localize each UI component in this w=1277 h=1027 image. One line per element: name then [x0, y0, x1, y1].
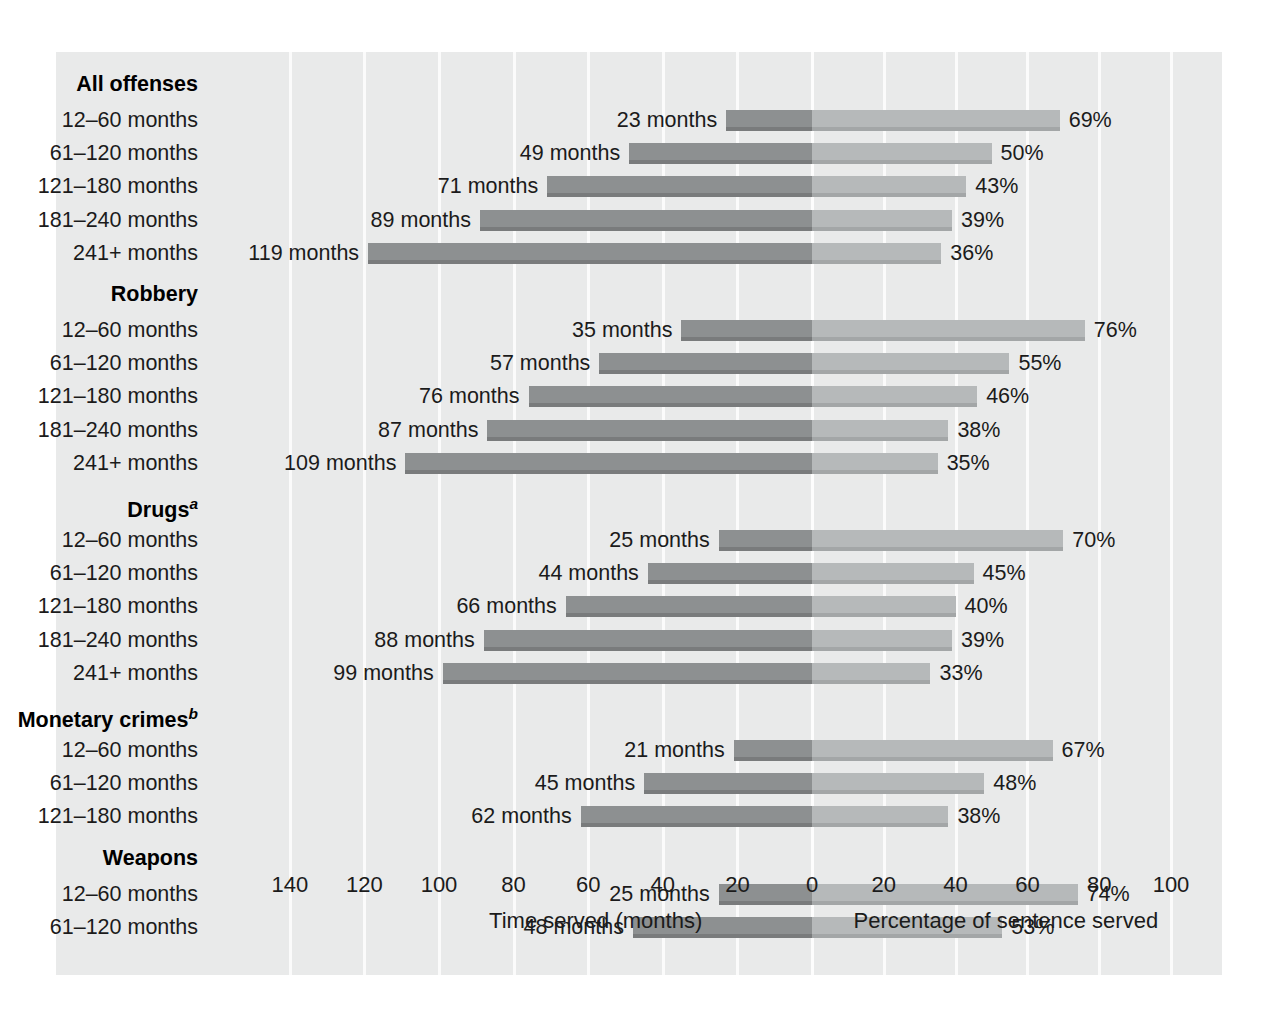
chart-row: 121–180 months66 months40% — [56, 593, 1222, 619]
row-category-label: 241+ months — [0, 240, 198, 266]
chart-row: 12–60 months35 months76% — [56, 317, 1222, 343]
bar-months — [566, 596, 812, 617]
group-heading-label: Drugs — [127, 498, 189, 522]
bar-percent-value-label: 40% — [956, 593, 1008, 619]
bar-months — [629, 143, 812, 164]
bar-percent-value-label: 48% — [984, 770, 1036, 796]
row-category-label: 181–240 months — [0, 207, 198, 233]
bar-percent-value-label: 36% — [941, 240, 993, 266]
bar-percent-value-label: 46% — [977, 383, 1029, 409]
bar-percent — [812, 143, 992, 164]
bar-months — [681, 320, 812, 341]
group-heading-robbery: Robbery — [0, 281, 198, 307]
bar-months-value-label: 71 months — [438, 173, 547, 199]
axis-area: 14012010080604020020406080100 Time serve… — [56, 852, 1222, 975]
bar-percent-value-label: 45% — [974, 560, 1026, 586]
row-category-label: 241+ months — [0, 450, 198, 476]
bar-percent — [812, 353, 1009, 374]
bar-months-value-label: 44 months — [538, 560, 647, 586]
bar-months-value-label: 25 months — [609, 527, 718, 553]
bar-months-value-label: 99 months — [333, 660, 442, 686]
bar-percent — [812, 773, 984, 794]
chart-row: 181–240 months88 months39% — [56, 627, 1222, 653]
chart-row: 12–60 months21 months67% — [56, 737, 1222, 763]
bar-months-value-label: 87 months — [378, 417, 487, 443]
chart-row: 181–240 months87 months38% — [56, 417, 1222, 443]
bar-percent-value-label: 76% — [1085, 317, 1137, 343]
bar-months-value-label: 35 months — [572, 317, 681, 343]
tick-label-months-80: 80 — [501, 872, 525, 898]
tick-label-percent-100: 100 — [1153, 872, 1190, 898]
bar-percent — [812, 596, 956, 617]
bar-percent-value-label: 70% — [1063, 527, 1115, 553]
chart-row: 12–60 months23 months69% — [56, 107, 1222, 133]
bar-percent-value-label: 33% — [930, 660, 982, 686]
bar-months — [644, 773, 812, 794]
bar-percent-value-label: 50% — [992, 140, 1044, 166]
chart-row: 241+ months119 months36% — [56, 240, 1222, 266]
bar-months-value-label: 89 months — [371, 207, 480, 233]
bar-months — [734, 740, 812, 761]
row-category-label: 61–120 months — [0, 140, 198, 166]
bar-months — [719, 530, 812, 551]
group-heading-label: All offenses — [76, 72, 198, 96]
bar-percent — [812, 320, 1085, 341]
bar-percent — [812, 210, 952, 231]
chart-row: 121–180 months62 months38% — [56, 803, 1222, 829]
bar-months — [443, 663, 812, 684]
bar-months — [368, 243, 812, 264]
row-category-label: 61–120 months — [0, 770, 198, 796]
figure-root: All offenses12–60 months23 months69%61–1… — [0, 0, 1277, 1027]
bar-percent — [812, 110, 1060, 131]
bar-months-value-label: 119 months — [248, 240, 368, 266]
chart-row: 61–120 months57 months55% — [56, 350, 1222, 376]
bar-percent — [812, 663, 930, 684]
row-category-label: 61–120 months — [0, 560, 198, 586]
bar-percent-value-label: 43% — [966, 173, 1018, 199]
bar-months-value-label: 49 months — [520, 140, 629, 166]
row-category-label: 181–240 months — [0, 417, 198, 443]
group-heading-all-offenses: All offenses — [0, 71, 198, 97]
tick-label-months-20: 20 — [725, 872, 749, 898]
right-axis-title: Percentage of sentence served — [854, 908, 1159, 934]
bar-months-value-label: 45 months — [535, 770, 644, 796]
bar-months — [599, 353, 812, 374]
group-heading-footnote: b — [189, 705, 198, 722]
bar-months — [480, 210, 812, 231]
bar-percent — [812, 630, 952, 651]
row-category-label: 12–60 months — [0, 317, 198, 343]
bar-months-value-label: 88 months — [374, 627, 483, 653]
bar-percent — [812, 420, 948, 441]
tick-label-percent-40: 40 — [943, 872, 967, 898]
group-heading-label: Robbery — [111, 282, 198, 306]
group-heading-footnote: a — [189, 495, 198, 512]
bar-percent — [812, 530, 1063, 551]
bar-percent — [812, 176, 966, 197]
bar-months-value-label: 57 months — [490, 350, 599, 376]
bar-months-value-label: 76 months — [419, 383, 528, 409]
chart-row: 121–180 months71 months43% — [56, 173, 1222, 199]
bar-percent — [812, 243, 941, 264]
row-category-label: 12–60 months — [0, 107, 198, 133]
group-heading-label: Monetary crimes — [18, 708, 189, 732]
row-category-label: 121–180 months — [0, 803, 198, 829]
tick-label-months-40: 40 — [651, 872, 675, 898]
group-heading-monetary-crimes: Monetary crimesb — [0, 701, 198, 727]
tick-label-months-60: 60 — [576, 872, 600, 898]
bar-percent-value-label: 39% — [952, 627, 1004, 653]
tick-label-months-100: 100 — [421, 872, 458, 898]
group-heading-drugs: Drugsa — [0, 491, 198, 517]
bar-months-value-label: 62 months — [471, 803, 580, 829]
row-category-label: 12–60 months — [0, 527, 198, 553]
bar-percent — [812, 386, 977, 407]
tick-label-percent-60: 60 — [1015, 872, 1039, 898]
bar-months — [648, 563, 812, 584]
bar-months-value-label: 66 months — [456, 593, 565, 619]
left-axis-title: Time served (months) — [489, 908, 702, 934]
bar-months — [581, 806, 812, 827]
bar-months — [547, 176, 812, 197]
chart-row: 181–240 months89 months39% — [56, 207, 1222, 233]
bar-months-value-label: 109 months — [284, 450, 405, 476]
bar-percent-value-label: 55% — [1009, 350, 1061, 376]
bar-months — [405, 453, 812, 474]
